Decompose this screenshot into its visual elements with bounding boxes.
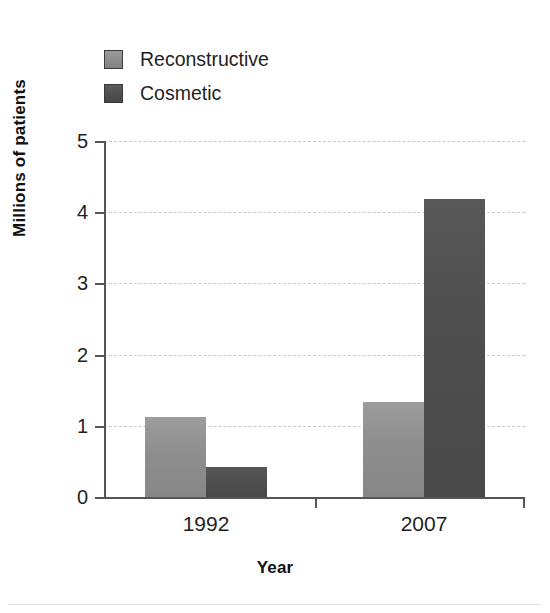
y-axis-tick-0	[95, 497, 104, 499]
y-axis-tick-4	[95, 212, 104, 214]
legend-item-cosmetic: Cosmetic	[104, 76, 404, 110]
legend-label-reconstructive: Reconstructive	[140, 50, 269, 69]
bar-2007-reconstructive	[363, 402, 424, 497]
y-tick-label-4: 4	[62, 201, 88, 224]
bar-1992-cosmetic	[206, 467, 267, 497]
x-tick-label-1992: 1992	[146, 512, 266, 536]
x-tick-label-2007: 2007	[364, 512, 484, 536]
y-tick-label-0: 0	[62, 486, 88, 509]
plot-area	[104, 141, 525, 497]
legend-swatch-cosmetic	[104, 84, 123, 103]
bar-1992-reconstructive	[145, 417, 206, 497]
legend-swatch-reconstructive	[104, 50, 123, 69]
y-tick-label-1: 1	[62, 415, 88, 438]
y-tick-label-2: 2	[62, 344, 88, 367]
y-tick-label-5: 5	[62, 130, 88, 153]
y-axis-line	[104, 141, 106, 497]
x-axis-line	[104, 497, 525, 499]
y-axis-title: Millions of patients	[10, 0, 30, 318]
gridline-5	[104, 141, 525, 142]
footer-divider	[8, 604, 542, 605]
y-axis-tick-5	[95, 141, 104, 143]
y-axis-tick-2	[95, 355, 104, 357]
y-tick-label-3: 3	[62, 272, 88, 295]
x-axis-title: Year	[0, 558, 550, 578]
y-axis-tick-3	[95, 283, 104, 285]
legend-label-cosmetic: Cosmetic	[140, 84, 221, 103]
bar-chart-figure: Reconstructive Cosmetic Millions of pati…	[0, 0, 550, 613]
chart-legend: Reconstructive Cosmetic	[104, 42, 404, 110]
bar-2007-cosmetic	[424, 199, 485, 497]
legend-item-reconstructive: Reconstructive	[104, 42, 404, 76]
y-axis-tick-1	[95, 426, 104, 428]
